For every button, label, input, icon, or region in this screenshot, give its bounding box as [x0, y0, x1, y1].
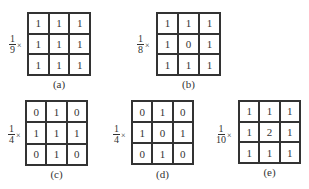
kernel-cell: 1: [46, 144, 66, 165]
kernel-cell: 0: [178, 34, 199, 55]
kernel-a-caption: (a): [27, 78, 91, 90]
kernel-cell: 1: [239, 101, 259, 122]
kernel-a-grid: 1 1 1 1 1 1 1 1 1: [27, 12, 91, 76]
kernel-cell: 0: [173, 143, 193, 164]
kernel-cell: 1: [199, 54, 220, 75]
kernel-cell: 1: [49, 54, 70, 75]
factor-denominator: 8: [138, 45, 143, 55]
kernel-cell: 1: [69, 13, 90, 34]
kernel-cell: 1: [259, 101, 279, 122]
kernel-cell: 1: [157, 13, 178, 34]
kernel-cell: 1: [152, 143, 172, 164]
kernel-cell: 1: [173, 122, 193, 143]
kernel-cell: 0: [132, 143, 152, 164]
kernel-d-grid: 0 1 0 1 0 1 0 1 0: [131, 100, 194, 165]
kernel-cell: 1: [239, 142, 259, 163]
factor-denominator: 4: [9, 135, 14, 145]
kernel-cell: 1: [157, 34, 178, 55]
kernel-b-caption: (b): [156, 78, 221, 90]
times-sign: ×: [17, 41, 22, 50]
kernel-cell: 0: [26, 101, 46, 122]
kernel-cell: 1: [178, 54, 199, 75]
kernel-cell: 1: [178, 13, 199, 34]
kernel-cell: 2: [259, 122, 279, 143]
kernel-cell: 0: [132, 101, 152, 122]
kernel-cell: 1: [49, 13, 70, 34]
factor-denominator: 10: [216, 135, 226, 145]
kernel-c-caption: (c): [25, 168, 88, 180]
kernel-cell: 1: [280, 101, 300, 122]
kernel-cell: 1: [280, 142, 300, 163]
kernel-cell: 1: [28, 13, 49, 34]
kernel-e-factor: 110 ×: [216, 124, 232, 145]
kernel-d-caption: (d): [131, 168, 194, 180]
kernel-c-grid: 0 1 0 1 1 1 0 1 0: [25, 100, 88, 166]
kernel-cell: 1: [152, 101, 172, 122]
kernel-c-factor: 14 ×: [8, 124, 21, 145]
kernel-cell: 1: [199, 13, 220, 34]
kernel-e-caption: (e): [238, 166, 301, 178]
kernel-cell: 1: [69, 34, 90, 55]
kernel-cell: 1: [157, 54, 178, 75]
factor-denominator: 4: [114, 135, 119, 145]
kernel-cell: 1: [49, 34, 70, 55]
times-sign: ×: [121, 131, 126, 140]
kernel-cell: 1: [280, 122, 300, 143]
kernel-cell: 1: [259, 142, 279, 163]
kernel-cell: 1: [26, 122, 46, 143]
kernel-cell: 0: [152, 122, 172, 143]
kernel-cell: 0: [26, 144, 46, 165]
times-sign: ×: [227, 131, 232, 140]
kernel-b-grid: 1 1 1 1 0 1 1 1 1: [156, 12, 221, 76]
kernel-cell: 1: [69, 54, 90, 75]
kernel-cell: 1: [28, 54, 49, 75]
kernel-cell: 1: [132, 122, 152, 143]
times-sign: ×: [145, 41, 150, 50]
times-sign: ×: [16, 131, 21, 140]
kernel-d-factor: 14 ×: [113, 124, 126, 145]
kernel-e-grid: 1 1 1 1 2 1 1 1 1: [238, 100, 301, 164]
kernel-a-factor: 19 ×: [9, 34, 22, 55]
kernel-cell: 1: [199, 34, 220, 55]
kernel-cell: 1: [28, 34, 49, 55]
kernel-cell: 1: [239, 122, 259, 143]
kernel-cell: 0: [67, 101, 87, 122]
kernel-cell: 1: [46, 122, 66, 143]
factor-denominator: 9: [10, 45, 15, 55]
kernel-cell: 1: [46, 101, 66, 122]
kernel-cell: 0: [67, 144, 87, 165]
kernel-b-factor: 18 ×: [137, 34, 150, 55]
kernel-cell: 0: [173, 101, 193, 122]
kernel-cell: 1: [67, 122, 87, 143]
